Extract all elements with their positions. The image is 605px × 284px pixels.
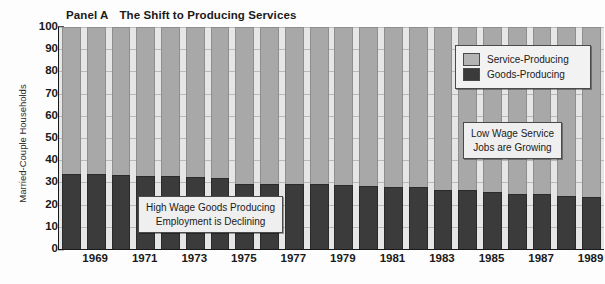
bar-segment-goods-producing bbox=[310, 184, 329, 249]
x-axis-tick-label: 1977 bbox=[281, 252, 307, 264]
y-axis-tick-label: 30 bbox=[24, 177, 58, 189]
y-axis-tick-label: 90 bbox=[24, 43, 58, 55]
bar-segment-goods-producing bbox=[582, 197, 601, 249]
chart-legend: Service-Producing Goods-Producing bbox=[455, 45, 591, 89]
legend-swatch-goods-producing bbox=[463, 68, 480, 81]
y-axis-tick-label: 60 bbox=[24, 110, 58, 122]
bar-segment-goods-producing bbox=[384, 187, 403, 249]
chart-title-panel: Panel A bbox=[66, 9, 108, 21]
bar-segment-service-producing bbox=[161, 27, 180, 176]
legend-label-service-producing: Service-Producing bbox=[487, 54, 569, 65]
bar-1978 bbox=[310, 27, 329, 249]
chart-title-name: The Shift to Producing Services bbox=[119, 9, 296, 21]
x-axis-tick-label: 1981 bbox=[380, 252, 406, 264]
bar-segment-service-producing bbox=[434, 27, 453, 190]
bar-segment-goods-producing bbox=[334, 185, 353, 249]
bar-segment-service-producing bbox=[186, 27, 205, 177]
chart-root: Panel AThe Shift to Producing Services M… bbox=[0, 0, 605, 284]
annotation-goods-line2: Employment is Declining bbox=[146, 215, 275, 229]
y-axis-tick-label: 20 bbox=[24, 199, 58, 211]
bar-segment-service-producing bbox=[235, 27, 254, 184]
bar-segment-goods-producing bbox=[483, 192, 502, 249]
legend-swatch-service-producing bbox=[463, 53, 480, 66]
bar-segment-service-producing bbox=[409, 27, 428, 187]
legend-label-goods-producing: Goods-Producing bbox=[487, 69, 565, 80]
bar-segment-service-producing bbox=[211, 27, 230, 178]
bar-1979 bbox=[334, 27, 353, 249]
bar-segment-service-producing bbox=[62, 27, 81, 174]
bar-segment-goods-producing bbox=[434, 190, 453, 249]
bar-segment-service-producing bbox=[87, 27, 106, 174]
bar-1982 bbox=[409, 27, 428, 249]
bar-segment-goods-producing bbox=[359, 186, 378, 249]
y-axis-tick-label: 70 bbox=[24, 88, 58, 100]
x-axis-tick-label: 1973 bbox=[181, 252, 207, 264]
x-axis-tick-label: 1989 bbox=[578, 252, 604, 264]
bar-segment-service-producing bbox=[260, 27, 279, 184]
bar-segment-goods-producing bbox=[458, 190, 477, 249]
annotation-service-line1: Low Wage Service bbox=[471, 127, 554, 141]
legend-item-goods-producing: Goods-Producing bbox=[463, 68, 584, 81]
y-axis-ticks: 0102030405060708090100 bbox=[0, 27, 58, 249]
annotation-service-producing: Low Wage Service Jobs are Growing bbox=[463, 122, 562, 159]
bar-segment-service-producing bbox=[384, 27, 403, 187]
x-axis-tick-label: 1969 bbox=[82, 252, 108, 264]
bar-segment-service-producing bbox=[310, 27, 329, 184]
annotation-goods-line1: High Wage Goods Producing bbox=[146, 201, 275, 215]
bar-segment-goods-producing bbox=[409, 187, 428, 249]
annotation-service-line2: Jobs are Growing bbox=[471, 141, 554, 155]
bar-segment-service-producing bbox=[285, 27, 304, 184]
bar-segment-goods-producing bbox=[533, 194, 552, 250]
y-axis-tick-label: 100 bbox=[24, 21, 58, 33]
x-axis-labels: 1969197119731975197719791981198319851987… bbox=[58, 252, 603, 272]
bar-segment-goods-producing bbox=[557, 196, 576, 249]
bar-segment-service-producing bbox=[112, 27, 131, 175]
bar-1977 bbox=[285, 27, 304, 249]
y-axis-tick-label: 0 bbox=[24, 243, 58, 255]
y-axis-tick-label: 40 bbox=[24, 154, 58, 166]
bar-1970 bbox=[112, 27, 131, 249]
bar-segment-goods-producing bbox=[285, 184, 304, 249]
y-axis-tick-label: 50 bbox=[24, 132, 58, 144]
bar-segment-goods-producing bbox=[62, 174, 81, 249]
bar-segment-service-producing bbox=[359, 27, 378, 186]
x-axis-tick-label: 1979 bbox=[330, 252, 356, 264]
bar-segment-goods-producing bbox=[112, 175, 131, 249]
bar-1980 bbox=[359, 27, 378, 249]
y-axis-tick-label: 80 bbox=[24, 66, 58, 78]
x-axis-tick-label: 1985 bbox=[479, 252, 505, 264]
chart-title: Panel AThe Shift to Producing Services bbox=[66, 9, 296, 21]
bar-segment-service-producing bbox=[136, 27, 155, 176]
legend-item-service-producing: Service-Producing bbox=[463, 53, 584, 66]
x-axis-tick-label: 1983 bbox=[429, 252, 455, 264]
bar-segment-goods-producing bbox=[87, 174, 106, 249]
x-axis-tick-label: 1987 bbox=[528, 252, 554, 264]
bar-segment-service-producing bbox=[334, 27, 353, 185]
annotation-goods-producing: High Wage Goods Producing Employment is … bbox=[138, 196, 283, 233]
bar-segment-goods-producing bbox=[508, 194, 527, 250]
bar-1983 bbox=[434, 27, 453, 249]
y-axis-tick-label: 10 bbox=[24, 221, 58, 233]
bar-1969 bbox=[87, 27, 106, 249]
x-axis-tick-label: 1975 bbox=[231, 252, 257, 264]
x-axis-tick-label: 1971 bbox=[132, 252, 158, 264]
bar-1968 bbox=[62, 27, 81, 249]
bar-1981 bbox=[384, 27, 403, 249]
